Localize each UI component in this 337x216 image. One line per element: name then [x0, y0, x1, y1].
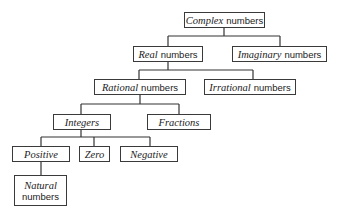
node-label-suffix: numbers: [141, 82, 178, 93]
node-label-emphasis: Real: [138, 49, 157, 60]
node-rational-numbers: Rationalnumbers: [94, 79, 186, 95]
node-negative: Negative: [120, 146, 178, 162]
node-label-emphasis: Irrational: [209, 82, 250, 93]
node-label-emphasis: Positive: [24, 149, 58, 160]
node-imaginary-numbers: Imaginarynumbers: [232, 46, 327, 62]
node-label-emphasis: Natural: [24, 180, 57, 191]
node-label-suffix: numbers: [161, 49, 198, 60]
node-label-emphasis: Fractions: [159, 117, 200, 128]
node-complex-numbers: Complexnumbers: [184, 12, 265, 28]
node-natural-numbers: Natural numbers: [14, 175, 67, 206]
node-label-suffix: numbers: [226, 15, 263, 26]
node-real-numbers: Realnumbers: [133, 46, 203, 62]
node-label-emphasis: Complex: [186, 15, 223, 26]
node-label-emphasis: Imaginary: [238, 49, 282, 60]
node-integers: Integers: [53, 114, 111, 130]
node-zero: Zero: [79, 146, 110, 162]
node-label-emphasis: Integers: [65, 117, 99, 128]
node-label-suffix: numbers: [284, 49, 321, 60]
node-irrational-numbers: Irrationalnumbers: [204, 79, 296, 95]
number-tree-diagram: Complexnumbers Realnumbers Imaginarynumb…: [0, 0, 337, 216]
node-label-emphasis: Negative: [130, 149, 167, 160]
node-label-emphasis: Zero: [85, 149, 104, 160]
node-label-emphasis: Rational: [102, 82, 138, 93]
node-positive: Positive: [12, 146, 70, 162]
node-label-suffix: numbers: [254, 82, 291, 93]
node-fractions: Fractions: [147, 114, 211, 130]
node-label-suffix: numbers: [22, 191, 59, 202]
